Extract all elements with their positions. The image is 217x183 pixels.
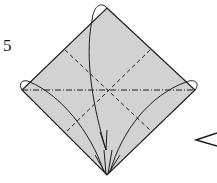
paper-square — [22, 8, 195, 175]
origami-fold-diagram — [0, 0, 217, 183]
next-step-icon — [196, 133, 217, 146]
